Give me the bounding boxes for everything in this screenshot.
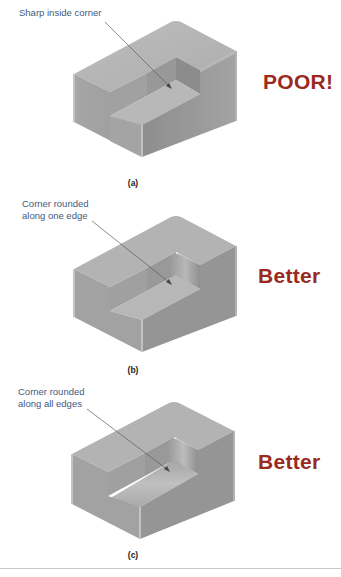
divider-rule <box>0 568 341 569</box>
verdict-label: POOR! <box>263 70 333 94</box>
figure-caption: (b) <box>118 365 148 375</box>
figure-caption: (c) <box>118 550 148 560</box>
panel-a: Sharp inside corner <box>0 0 341 190</box>
figure-caption: (a) <box>118 178 148 188</box>
panel-c: Corner rounded along all edges <box>0 376 341 568</box>
verdict-label: Better <box>258 264 320 288</box>
block-illustration-sharp <box>0 0 341 190</box>
verdict-label: Better <box>258 450 320 474</box>
panel-b: Corner rounded along one edge Better (b) <box>0 190 341 376</box>
